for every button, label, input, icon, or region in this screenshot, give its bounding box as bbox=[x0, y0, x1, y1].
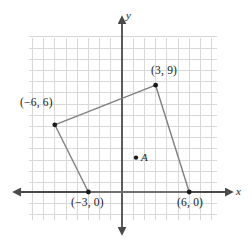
point-a-label: A bbox=[141, 152, 148, 163]
vertex-point-6-0 bbox=[187, 190, 192, 195]
vertex-label-3-9: (3, 9) bbox=[151, 65, 177, 77]
vertex-label-6-0: (6, 0) bbox=[177, 197, 203, 209]
vertex-point-3-9 bbox=[153, 83, 158, 88]
y-axis-label: y bbox=[126, 10, 131, 21]
point-a-marker bbox=[134, 155, 138, 159]
vertex-label-neg6-6: (−6, 6) bbox=[20, 97, 53, 109]
coordinate-plane-figure: (−6, 6) (3, 9) (6, 0) (−3, 0) A x y bbox=[0, 0, 252, 248]
vertex-point-neg3-0 bbox=[86, 190, 91, 195]
vertex-point-neg6-6 bbox=[52, 122, 57, 127]
plot-canvas bbox=[0, 0, 252, 248]
x-axis-label: x bbox=[236, 186, 241, 197]
vertex-label-neg3-0: (−3, 0) bbox=[71, 197, 104, 209]
